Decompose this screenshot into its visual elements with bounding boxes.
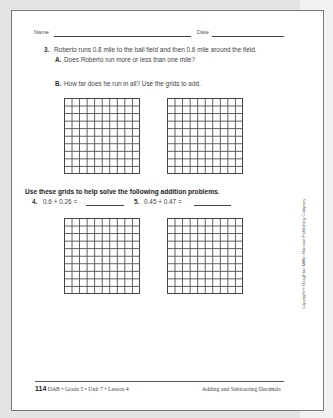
footer-lesson-title: Adding and Subtracting Decimals <box>202 386 281 392</box>
hundredths-grid-3a <box>64 98 140 174</box>
instructions-heading: Use these grids to help solve the follow… <box>25 188 220 195</box>
problem-5-expression: 0.45 + 0.47 = <box>144 198 182 205</box>
part-b-label: B. <box>55 80 61 87</box>
problem-5-answer-line[interactable] <box>194 205 231 206</box>
problem-5-number: 5. <box>134 198 139 205</box>
problem-3-number: 3. <box>44 46 49 53</box>
page-number: 114 <box>35 385 46 392</box>
hundredths-grid-5 <box>167 218 243 294</box>
name-label: Name <box>34 29 49 35</box>
footer-divider <box>35 381 284 382</box>
footer-left: 114 DAB • Grade 5 • Unit 7 • Lesson 4 <box>35 385 129 392</box>
part-a-text: Does Roberto run more or less than one m… <box>64 56 195 63</box>
worksheet-page: Name Date 3. Roberto runs 0.8 mile to th… <box>11 10 324 411</box>
hundredths-grid-3b <box>167 98 243 174</box>
hundredths-grid-4 <box>64 218 140 294</box>
problem-4-number: 4. <box>32 198 37 205</box>
name-field-line[interactable] <box>54 36 191 37</box>
date-label: Date <box>197 29 209 35</box>
problem-4-expression: 0.6 + 0.26 = <box>43 198 77 205</box>
problem-3-text: Roberto runs 0.8 mile to the ball field … <box>54 46 257 53</box>
part-a-label: A. <box>55 56 61 63</box>
footer-course-info: DAB • Grade 5 • Unit 7 • Lesson 4 <box>48 386 129 392</box>
date-field-line[interactable] <box>212 36 284 37</box>
copyright-notice: Copyright © Houghton Mifflin Harcourt Pu… <box>301 199 306 309</box>
part-b-text: How far does he run in all? Use the grid… <box>64 80 201 87</box>
problem-4-answer-line[interactable] <box>86 205 124 206</box>
